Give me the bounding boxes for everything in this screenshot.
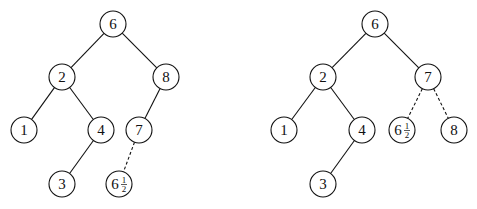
node-label: 2 bbox=[319, 69, 327, 85]
edge-dashed bbox=[124, 142, 135, 172]
tree-node: 2 bbox=[310, 64, 336, 90]
edge-dashed bbox=[434, 89, 449, 119]
edge-dashed bbox=[408, 89, 423, 119]
node-label: 3 bbox=[58, 176, 66, 192]
nodes-layer: 62814736126271461283 bbox=[11, 11, 467, 197]
tree-node: 4 bbox=[349, 117, 375, 143]
node-label: 6 bbox=[111, 176, 119, 192]
edge-solid bbox=[71, 33, 104, 67]
tree-node: 6 bbox=[362, 11, 388, 37]
tree-node: 1 bbox=[271, 117, 297, 143]
node-label: 8 bbox=[450, 122, 458, 138]
edge-solid bbox=[70, 88, 94, 120]
edge-solid bbox=[145, 89, 160, 119]
right-tree-nodes: 6271461283 bbox=[271, 11, 467, 197]
tree-node: 612 bbox=[106, 171, 132, 197]
node-label: 1 bbox=[20, 122, 28, 138]
node-label: 6 bbox=[109, 16, 117, 32]
tree-diagram: 62814736126271461283 bbox=[0, 0, 477, 209]
edge-solid bbox=[292, 88, 316, 120]
tree-node: 2 bbox=[49, 64, 75, 90]
node-label: 1 bbox=[280, 122, 288, 138]
edge-solid bbox=[32, 88, 55, 120]
tree-node: 8 bbox=[441, 117, 467, 143]
tree-node: 4 bbox=[88, 117, 114, 143]
tree-node: 612 bbox=[389, 117, 415, 143]
node-label: 7 bbox=[135, 122, 143, 138]
tree-node: 6 bbox=[100, 11, 126, 37]
edge-solid bbox=[332, 33, 366, 67]
edge-solid bbox=[331, 141, 355, 174]
edges-layer bbox=[32, 33, 449, 173]
tree-node: 8 bbox=[153, 64, 179, 90]
node-label: 7 bbox=[424, 69, 432, 85]
tree-node: 3 bbox=[49, 171, 75, 197]
node-label: 6 bbox=[371, 16, 379, 32]
node-label: 2 bbox=[58, 69, 66, 85]
left-tree bbox=[32, 33, 161, 173]
node-label: 4 bbox=[97, 122, 105, 138]
node-circle bbox=[106, 171, 132, 197]
node-label: 6 bbox=[394, 122, 402, 138]
node-label: 3 bbox=[319, 176, 327, 192]
edge-solid bbox=[384, 33, 419, 68]
node-label: 4 bbox=[358, 122, 366, 138]
edge-solid bbox=[331, 88, 355, 120]
edge-solid bbox=[70, 141, 94, 174]
left-tree-nodes: 6281473612 bbox=[11, 11, 179, 197]
tree-node: 7 bbox=[126, 117, 152, 143]
tree-node: 7 bbox=[415, 64, 441, 90]
node-label: 8 bbox=[162, 69, 170, 85]
edge-solid bbox=[122, 33, 157, 68]
tree-node: 1 bbox=[11, 117, 37, 143]
fraction-denominator: 2 bbox=[405, 130, 410, 140]
fraction-denominator: 2 bbox=[122, 184, 127, 194]
tree-node: 3 bbox=[310, 171, 336, 197]
right-tree bbox=[292, 33, 449, 173]
node-circle bbox=[389, 117, 415, 143]
